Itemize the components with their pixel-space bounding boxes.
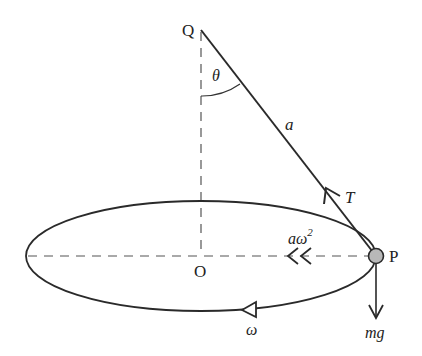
label-p: P [389, 247, 398, 266]
label-o: O [194, 262, 206, 281]
angular-velocity-arrow-icon [242, 302, 256, 317]
string [201, 30, 376, 256]
conical-pendulum-diagram: Q θ a T aω2 O P mg ω [0, 0, 422, 356]
label-omega: ω [246, 321, 257, 338]
label-theta: θ [212, 67, 220, 84]
label-mg: mg [365, 324, 385, 342]
label-a: a [285, 115, 294, 134]
label-t: T [345, 188, 356, 207]
tension-arrow-icon [324, 188, 340, 204]
angle-arc [201, 84, 240, 96]
particle [369, 249, 384, 264]
label-a-omega: aω2 [288, 226, 313, 247]
label-q: Q [182, 21, 194, 40]
